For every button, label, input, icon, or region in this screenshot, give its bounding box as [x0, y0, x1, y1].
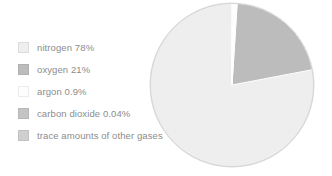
legend-label-carbon-dioxide: carbon dioxide 0.04%	[37, 108, 130, 119]
legend-item-carbon-dioxide: carbon dioxide 0.04%	[18, 102, 168, 124]
pie-chart-figure: nitrogen 78% oxygen 21% argon 0.9% carbo…	[0, 0, 332, 176]
legend-item-trace-gases: trace amounts of other gases	[18, 124, 168, 146]
legend-item-argon: argon 0.9%	[18, 80, 168, 102]
legend-label-argon: argon 0.9%	[37, 86, 87, 97]
legend-label-nitrogen: nitrogen 78%	[37, 42, 94, 53]
legend-item-oxygen: oxygen 21%	[18, 58, 168, 80]
legend-label-trace-gases: trace amounts of other gases	[37, 130, 163, 141]
legend-swatch-carbon-dioxide	[18, 108, 29, 119]
pie-svg	[149, 2, 315, 168]
legend-swatch-argon	[18, 86, 29, 97]
legend-item-nitrogen: nitrogen 78%	[18, 36, 168, 58]
chart-legend: nitrogen 78% oxygen 21% argon 0.9% carbo…	[18, 36, 168, 146]
legend-swatch-trace-gases	[18, 130, 29, 141]
legend-swatch-nitrogen	[18, 42, 29, 53]
pie-slice-group	[150, 3, 314, 167]
legend-swatch-oxygen	[18, 64, 29, 75]
legend-label-oxygen: oxygen 21%	[37, 64, 90, 75]
pie-graphic	[149, 2, 315, 168]
